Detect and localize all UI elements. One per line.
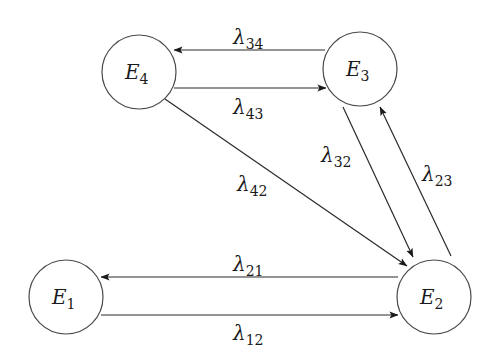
state-node-E3: E3 <box>323 32 397 106</box>
transition-label-l42: λ42 <box>236 172 268 199</box>
transition-label-l12: λ12 <box>232 321 264 348</box>
state-letter: E <box>419 285 435 309</box>
state-node-E1: E1 <box>29 260 103 334</box>
state-subscript: 3 <box>361 68 370 84</box>
rate-subscript: 34 <box>246 36 264 52</box>
lambda-symbol: λ <box>421 162 435 186</box>
transition-label-l21: λ21 <box>232 252 264 279</box>
transition-label-l23: λ23 <box>421 162 453 189</box>
transition-label-l43: λ43 <box>232 95 264 122</box>
rate-subscript: 23 <box>435 173 453 189</box>
rate-subscript: 42 <box>250 183 268 199</box>
transition-arrow-l42 <box>165 99 407 266</box>
transition-label-l32: λ32 <box>320 143 352 170</box>
state-transition-diagram: E1E2E3E4 λ34λ43λ42λ32λ23λ21λ12 <box>0 0 493 361</box>
lambda-symbol: λ <box>320 143 334 167</box>
state-node-E4: E4 <box>102 35 176 109</box>
rate-subscript: 32 <box>334 154 352 170</box>
state-letter: E <box>51 285 67 309</box>
transition-label-l34: λ34 <box>232 25 264 52</box>
lambda-symbol: λ <box>232 25 246 49</box>
lambda-symbol: λ <box>236 172 250 196</box>
rate-subscript: 21 <box>246 263 264 279</box>
rate-subscript: 12 <box>246 332 264 348</box>
state-subscript: 4 <box>140 71 149 87</box>
lambda-symbol: λ <box>232 95 246 119</box>
diagram-canvas: E1E2E3E4 λ34λ43λ42λ32λ23λ21λ12 <box>0 0 493 361</box>
state-letter: E <box>345 57 361 81</box>
state-subscript: 2 <box>435 296 444 312</box>
state-node-E2: E2 <box>397 260 471 334</box>
state-letter: E <box>124 60 140 84</box>
lambda-symbol: λ <box>232 321 246 345</box>
lambda-symbol: λ <box>232 252 246 276</box>
state-subscript: 1 <box>67 296 76 312</box>
rate-subscript: 43 <box>246 106 264 122</box>
transition-arrow-l32 <box>343 107 413 257</box>
